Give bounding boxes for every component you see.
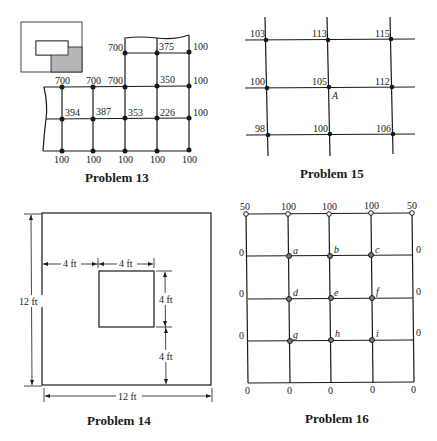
p14-left-offset: 4 ft bbox=[63, 258, 77, 269]
p16-left-label: 0 bbox=[239, 330, 244, 341]
p13-label: 100 bbox=[150, 154, 165, 165]
node-label-g: g bbox=[293, 329, 298, 340]
p16-top-label: 50 bbox=[240, 201, 250, 212]
point-a-label: A bbox=[331, 90, 339, 101]
p15-value: 98 bbox=[255, 123, 265, 134]
node-label-a: a bbox=[293, 245, 298, 256]
node-label-f: f bbox=[376, 286, 380, 297]
p15-value: 112 bbox=[375, 76, 390, 87]
node-label-b: b bbox=[334, 244, 339, 255]
node-label-i: i bbox=[376, 328, 379, 339]
region-location-icon bbox=[21, 22, 82, 72]
problem-16-figure: 50 100 100 100 50 0 0 0 0 0 0 0 0 0 0 0 … bbox=[239, 200, 421, 426]
p16-right-label: 0 bbox=[416, 244, 421, 255]
p13-label: 100 bbox=[118, 154, 133, 165]
p15-value: 113 bbox=[312, 28, 327, 39]
p15-value: 115 bbox=[375, 28, 390, 39]
node-label-c: c bbox=[375, 244, 380, 255]
p13-label: 100 bbox=[193, 41, 208, 52]
node-label-d: d bbox=[293, 287, 299, 298]
p16-top-label: 100 bbox=[364, 200, 379, 211]
p13-label: 100 bbox=[54, 154, 69, 165]
p15-value: 105 bbox=[312, 76, 327, 87]
problem-13-caption: Problem 13 bbox=[85, 170, 149, 185]
p15-value: 100 bbox=[250, 76, 265, 87]
p16-top-label: 100 bbox=[322, 201, 337, 212]
p16-bottom-label: 0 bbox=[245, 385, 250, 396]
p13-label: 226 bbox=[160, 107, 175, 118]
p14-outer-height: 12 ft bbox=[19, 296, 38, 307]
problem-13-figure: 700 375 100 700 700 700 350 100 394 387 … bbox=[21, 22, 208, 185]
p16-right-label: 0 bbox=[416, 327, 421, 338]
p16-right-label: 0 bbox=[416, 286, 421, 297]
p16-top-label: 100 bbox=[281, 201, 296, 212]
problem-15-figure: 103 113 115 100 105 112 98 100 106 A Pro… bbox=[245, 17, 415, 181]
p13-label: 375 bbox=[159, 41, 174, 52]
node-label-e: e bbox=[334, 287, 339, 298]
p13-label: 700 bbox=[55, 75, 70, 86]
problem-14-caption: Problem 14 bbox=[87, 413, 151, 428]
p16-top-label: 50 bbox=[407, 200, 417, 211]
p13-label: 700 bbox=[108, 42, 123, 53]
p16-bottom-label: 0 bbox=[411, 384, 416, 395]
p14-inner-width: 4 ft bbox=[119, 258, 133, 269]
p13-label: 100 bbox=[86, 154, 101, 165]
p15-value: 103 bbox=[250, 28, 265, 39]
p13-label: 394 bbox=[65, 107, 80, 118]
p16-left-label: 0 bbox=[239, 247, 244, 258]
node-label-h: h bbox=[335, 328, 340, 339]
problem-15-caption: Problem 15 bbox=[300, 166, 364, 181]
p15-value: 106 bbox=[376, 123, 391, 134]
p13-label: 387 bbox=[96, 106, 111, 117]
p13-label: 350 bbox=[160, 74, 175, 85]
p13-label: 100 bbox=[193, 75, 208, 86]
p16-bottom-label: 0 bbox=[328, 385, 333, 396]
p16-left-label: 0 bbox=[239, 288, 244, 299]
p13-label: 100 bbox=[182, 154, 197, 165]
p13-label: 700 bbox=[108, 75, 123, 86]
p13-label: 100 bbox=[193, 107, 208, 118]
p14-outer-width: 12 ft bbox=[118, 391, 137, 402]
p13-label: 700 bbox=[86, 75, 101, 86]
p16-bottom-label: 0 bbox=[287, 385, 292, 396]
p14-inner-height: 4 ft bbox=[159, 294, 173, 305]
p13-label: 353 bbox=[128, 107, 143, 118]
p16-bottom-label: 0 bbox=[370, 384, 375, 395]
p14-bottom-offset: 4 ft bbox=[159, 351, 173, 362]
problem-16-caption: Problem 16 bbox=[305, 411, 369, 426]
problem-14-figure: 12 ft 12 ft 4 ft 4 ft 4 ft 4 ft Problem … bbox=[18, 213, 212, 428]
p15-value: 100 bbox=[313, 123, 328, 134]
